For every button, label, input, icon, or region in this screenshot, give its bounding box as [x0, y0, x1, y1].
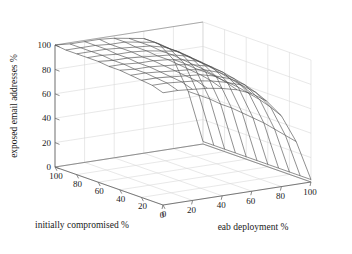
z-tick-20: 20 [42, 138, 52, 148]
plot-background [0, 0, 352, 254]
z-tick-60: 60 [42, 89, 52, 99]
y-axis-title-text: eab deployment % [218, 222, 289, 232]
z-tick-40: 40 [42, 113, 52, 123]
y-tick-60: 60 [246, 196, 256, 206]
y-tick-40: 40 [217, 200, 227, 210]
y-tick-20: 20 [187, 205, 197, 215]
x-axis-title-text: initially compromised % [35, 220, 129, 230]
z-tick-100: 100 [38, 40, 52, 50]
x-tick-100: 100 [49, 171, 63, 181]
z-tick-80: 80 [42, 65, 52, 75]
figure-container: 020406080100020406080100020406080100expo… [0, 0, 352, 254]
x-tick-20: 20 [138, 201, 148, 211]
y-tick-0: 0 [160, 210, 165, 220]
x-tick-40: 40 [116, 194, 126, 204]
z-axis-title-text: exposed email addresses % [9, 54, 19, 158]
x-tick-80: 80 [73, 179, 83, 189]
y-tick-100: 100 [303, 187, 317, 197]
surface-plot-canvas: 020406080100020406080100020406080100expo… [0, 0, 352, 254]
y-tick-80: 80 [276, 191, 286, 201]
x-tick-60: 60 [95, 186, 105, 196]
